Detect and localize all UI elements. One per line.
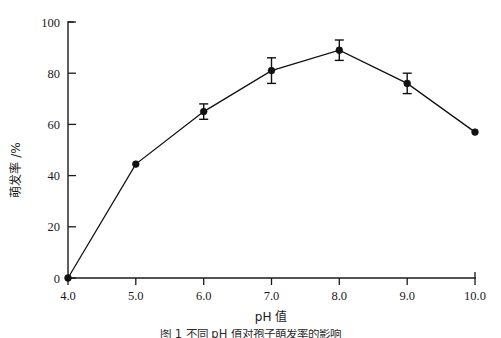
y-tick-label: 100 [41,16,60,30]
figure-caption-clip: 图 1 不同 pH 值对孢子萌发率的影响 [0,329,501,338]
data-point [268,67,275,74]
x-axis-title: pH 值 [255,309,287,324]
y-tick-label: 40 [48,169,61,183]
x-tick-label: 5.0 [128,289,144,303]
data-point [404,80,411,87]
y-tick-label: 80 [48,67,61,81]
x-tick-label: 4.0 [60,289,76,303]
figure-container: 0 20 40 60 80 100 4.0 5.0 6.0 7.0 8.0 9.… [0,0,501,338]
data-point [200,108,207,115]
y-tick-labels: 0 20 40 60 80 100 [41,16,60,286]
data-point [65,275,72,282]
data-point [336,47,343,54]
y-tick-label: 0 [54,272,60,286]
x-tick-label: 6.0 [196,289,212,303]
chart-svg: 0 20 40 60 80 100 4.0 5.0 6.0 7.0 8.0 9.… [0,0,501,338]
y-tick-marks [68,22,76,278]
data-point [472,129,479,136]
figure-caption: 图 1 不同 pH 值对孢子萌发率的影响 [0,329,501,338]
x-tick-marks [68,278,475,285]
x-tick-label: 9.0 [399,289,415,303]
x-tick-labels: 4.0 5.0 6.0 7.0 8.0 9.0 10.0 [60,289,486,303]
error-bars-group [199,40,412,119]
x-tick-label: 10.0 [464,289,486,303]
y-tick-label: 20 [48,220,61,234]
x-tick-label: 7.0 [264,289,280,303]
series-line-germination-rate [68,50,475,278]
y-axis-title: 萌发率 /% [8,142,23,197]
data-point [132,161,139,168]
y-tick-label: 60 [48,118,61,132]
x-tick-label: 8.0 [331,289,347,303]
